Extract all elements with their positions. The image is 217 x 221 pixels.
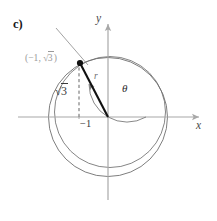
point-coordinate-label: (−1, √3) — [25, 53, 57, 63]
y-axis-label: y — [96, 13, 101, 25]
figure-canvas — [0, 0, 217, 221]
part-label: c) — [13, 18, 23, 31]
point-label-open: (−1, — [25, 52, 43, 63]
angle-label: θ — [122, 83, 127, 94]
x-axis-label: x — [196, 120, 201, 132]
x-intercept-label: −1 — [80, 119, 91, 130]
point-label-close: ) — [54, 52, 57, 63]
vertical-leg-length-label: √3 — [55, 85, 68, 98]
leg-radicand: 3 — [61, 83, 68, 98]
tangent-line — [56, 28, 88, 65]
plotted-point — [77, 60, 83, 66]
polar-coordinate-figure: c) y x (−1, √3) √3 −1 r θ — [0, 0, 217, 221]
angle-arc — [89, 84, 146, 122]
radius-label: r — [94, 72, 98, 82]
